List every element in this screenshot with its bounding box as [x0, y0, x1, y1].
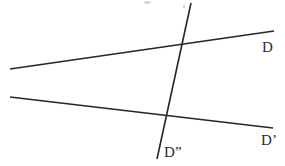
- scan-artifact-speck: [144, 1, 151, 4]
- figure-canvas: [0, 0, 285, 166]
- line-d: [10, 31, 274, 69]
- line-d-double-prime: [157, 3, 191, 159]
- label-line-d: D: [262, 40, 273, 55]
- scan-artifact-speck: [183, 5, 185, 8]
- label-line-d-prime: D’: [261, 133, 277, 148]
- label-line-d-double-prime: D”: [164, 145, 182, 160]
- line-d-prime: [10, 97, 273, 128]
- geometry-figure: D D’ D”: [0, 0, 285, 166]
